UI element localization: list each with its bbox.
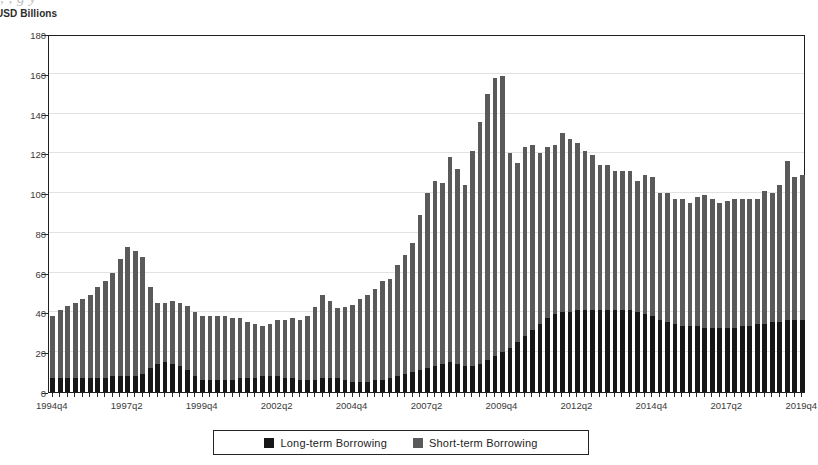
bar-segment-short-term [568, 139, 573, 312]
x-axis-tick [352, 393, 353, 397]
bar-segment-short-term [785, 161, 790, 320]
x-axis-tick [239, 393, 240, 397]
legend-label: Short-term Borrowing [429, 437, 538, 449]
bar [118, 259, 123, 392]
bar [170, 301, 175, 392]
x-axis-tick [561, 393, 562, 397]
bar-segment-short-term [253, 324, 258, 378]
bar [275, 320, 280, 392]
x-axis-tick [531, 393, 532, 397]
x-axis-tick [651, 393, 652, 397]
bar-segment-long-term [673, 324, 678, 392]
legend-item-long[interactable]: Long-term Borrowing [264, 437, 387, 449]
bar-segment-long-term [553, 314, 558, 392]
bar-segment-long-term [320, 378, 325, 392]
x-axis-tick [576, 393, 577, 397]
x-axis-tick-label: 2009q4 [486, 400, 518, 411]
x-axis-tick [314, 393, 315, 397]
bar-segment-short-term [320, 295, 325, 379]
bar [747, 199, 752, 392]
bar-segment-short-term [643, 175, 648, 314]
bar [777, 185, 782, 392]
bar [455, 169, 460, 392]
bar [395, 265, 400, 392]
bar-segment-short-term [50, 316, 55, 378]
x-axis-tick [704, 393, 705, 397]
x-axis-tick [389, 393, 390, 397]
bar-segment-long-term [133, 376, 138, 392]
bar-segment-short-term [298, 320, 303, 380]
x-axis-tick-label: 2012q2 [561, 400, 593, 411]
bar [792, 177, 797, 392]
x-axis-tick [382, 393, 383, 397]
x-axis-tick [689, 393, 690, 397]
x-axis-tick [539, 393, 540, 397]
bar-segment-short-term [463, 185, 468, 366]
bar [470, 151, 475, 392]
legend-item-short[interactable]: Short-term Borrowing [413, 437, 538, 449]
bar [373, 289, 378, 392]
bar-segment-short-term [425, 193, 430, 368]
x-axis-tick [779, 393, 780, 397]
bar-segment-short-term [732, 199, 737, 328]
x-axis-tick [247, 393, 248, 397]
bar [770, 193, 775, 392]
bar [643, 175, 648, 392]
y-axis-tick-label: 80 [35, 228, 46, 239]
bar [650, 177, 655, 392]
bar-segment-short-term [155, 303, 160, 365]
bar-segment-long-term [665, 322, 670, 392]
bar [350, 305, 355, 393]
x-axis-tick [524, 393, 525, 397]
bar-segment-long-term [313, 380, 318, 392]
bar-segment-short-term [223, 316, 228, 380]
bar [125, 247, 130, 392]
bar-segment-short-term [717, 203, 722, 328]
bar [388, 279, 393, 392]
x-axis-tick-label: 2014q4 [635, 400, 667, 411]
bar-segment-short-term [478, 122, 483, 365]
bar-segment-short-term [110, 273, 115, 376]
y-axis-tick-label: 120 [30, 149, 46, 160]
y-axis-tick-label: 40 [35, 308, 46, 319]
x-axis-tick [569, 393, 570, 397]
bar [58, 310, 63, 392]
bar-segment-short-term [200, 316, 205, 380]
bar-segment-long-term [785, 320, 790, 392]
bar-segment-short-term [65, 306, 70, 378]
legend-label: Long-term Borrowing [280, 437, 387, 449]
y-axis-tick-label: 0 [41, 388, 46, 399]
bar-segment-short-term [523, 147, 528, 336]
x-axis-tick [764, 393, 765, 397]
x-axis-tick [456, 393, 457, 397]
bar-segment-long-term [598, 310, 603, 392]
x-axis-tick [337, 393, 338, 397]
bar [358, 299, 363, 392]
bar-segment-long-term [478, 364, 483, 392]
bar-segment-short-term [73, 303, 78, 379]
bar-segment-long-term [185, 370, 190, 392]
bar [500, 76, 505, 392]
x-axis-tick [434, 393, 435, 397]
bar [50, 316, 55, 392]
x-axis-tick [734, 393, 735, 397]
bar-segment-short-term [358, 299, 363, 383]
x-axis-tick [292, 393, 293, 397]
bar [185, 306, 190, 392]
bar-segment-short-term [545, 147, 550, 318]
x-axis-tick [412, 393, 413, 397]
bar-segment-short-term [560, 133, 565, 312]
bar [605, 165, 610, 392]
x-axis-tick [771, 393, 772, 397]
bar [80, 299, 85, 392]
x-axis-tick [277, 393, 278, 397]
bar [140, 257, 145, 392]
bar-segment-long-term [110, 376, 115, 392]
bar-segment-long-term [380, 380, 385, 392]
bar-segment-short-term [260, 326, 265, 376]
bar [260, 326, 265, 392]
bar-segment-long-term [710, 328, 715, 392]
bar-segment-short-term [410, 243, 415, 372]
x-axis-tick [711, 393, 712, 397]
bar-segment-short-term [418, 215, 423, 370]
